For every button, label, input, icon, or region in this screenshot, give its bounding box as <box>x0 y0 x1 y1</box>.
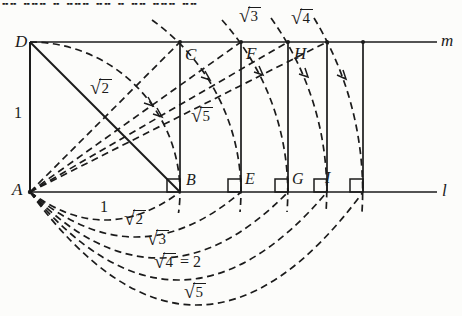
construction-svg <box>0 0 462 316</box>
sqrt-construction-diagram: ╍╍ ╍╍╍ ╍ ╍╍╍ ╍╍ ╍ ╍╍ ╍╍╍ ╍╍ <box>0 0 462 316</box>
line-label-m: m <box>441 32 453 49</box>
radicand: 2 <box>133 210 146 227</box>
right-angle-at-last <box>350 179 363 192</box>
arrowhead-icon <box>144 97 153 106</box>
point-label-B: B <box>186 172 196 188</box>
radicand: 5 <box>200 107 213 124</box>
right-angle-at-E <box>228 179 241 192</box>
dot-C <box>178 40 182 44</box>
point-label-F: F <box>246 45 256 62</box>
arrowhead-icon <box>201 71 210 80</box>
right-angle-marks <box>167 179 363 192</box>
equals-value: = 2 <box>180 253 201 271</box>
length-label-sqrt2-diagonal: √2 <box>90 79 112 96</box>
dot-A <box>28 190 32 194</box>
right-angle-at-G <box>275 179 288 192</box>
radicand: 3 <box>248 7 261 24</box>
point-label-C: C <box>185 46 196 63</box>
point-label-I: I <box>325 170 330 186</box>
point-label-A: A <box>12 181 22 198</box>
arc-label-sqrt4-top: √4 <box>291 9 313 26</box>
dot-I-top <box>325 40 329 44</box>
dot-H <box>286 40 290 44</box>
length-label-sqrt5-hypotenuse: √5 <box>191 107 213 124</box>
distance-label-sqrt4-equals-2: √4= 2 <box>154 253 201 271</box>
dot-F <box>239 40 243 44</box>
length-label-side-1: 1 <box>14 105 22 121</box>
point-label-D: D <box>15 33 27 50</box>
distance-label-sqrt2: √2 <box>124 210 146 227</box>
radicand: 3 <box>156 230 169 247</box>
radicand: 2 <box>99 79 112 96</box>
line-label-l: l <box>442 182 447 199</box>
distance-label-sqrt3: √3 <box>147 230 169 247</box>
arc-radius-sqrt5 <box>314 18 363 212</box>
dot-last-top <box>361 40 365 44</box>
point-label-H: H <box>294 45 306 62</box>
arc-label-sqrt3-top: √3 <box>239 7 261 24</box>
below-arc-AG <box>30 192 288 258</box>
distance-label-sqrt5: √5 <box>184 283 206 300</box>
arc-arrowheads <box>144 66 346 117</box>
radicand: 4 <box>300 9 313 26</box>
radicand: 5 <box>193 283 206 300</box>
radicand: 4 <box>163 253 176 270</box>
point-label-E: E <box>245 171 255 187</box>
point-label-G: G <box>292 171 304 187</box>
distance-label-1: 1 <box>100 199 108 215</box>
